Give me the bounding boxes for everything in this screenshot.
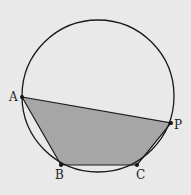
point-a-dot [20,95,24,99]
point-c-dot [135,163,139,167]
point-b-dot [59,163,63,167]
quadrilateral-abcp [22,97,171,165]
geometry-diagram: A B C P [0,0,191,195]
label-point-b: B [55,168,64,182]
label-point-p: P [174,118,182,132]
label-point-c: C [136,168,145,182]
label-point-a: A [8,90,18,104]
diagram-canvas: A B C P [0,0,191,195]
point-p-dot [169,121,173,125]
